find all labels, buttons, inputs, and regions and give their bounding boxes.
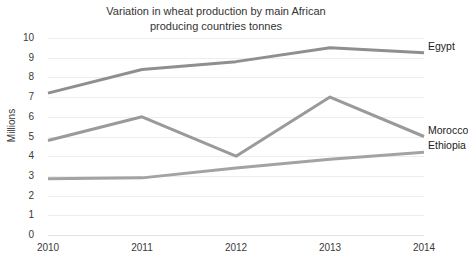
x-tick-label: 2010 [26,242,70,253]
y-tick-label: 6 [8,112,34,122]
y-tick-label: 5 [8,132,34,142]
y-tick-label: 2 [8,191,34,201]
y-tick-label: 1 [8,210,34,220]
y-tick-label: 10 [8,33,34,43]
y-tick-label: 7 [8,92,34,102]
x-tick-label: 2013 [308,242,352,253]
series-label-morocco: Morocco [428,124,468,136]
x-tick-label: 2014 [402,242,446,253]
y-tick-label: 0 [8,230,34,240]
series-label-egypt: Egypt [428,40,455,52]
gridline [48,235,424,236]
series-line-morocco [48,97,424,156]
plot-area: 012345678910 20102011201220132014 EgyptM… [48,38,424,235]
y-tick-label: 3 [8,171,34,181]
chart-title: Variation in wheat production by main Af… [0,4,432,34]
y-tick-label: 8 [8,72,34,82]
x-tick-label: 2012 [214,242,258,253]
y-axis-label: Millions [6,96,17,156]
series-lines [48,38,424,235]
series-line-egypt [48,48,424,93]
y-tick-label: 9 [8,53,34,63]
series-label-ethiopia: Ethiopia [428,139,466,151]
y-tick-label: 4 [8,151,34,161]
x-tick-label: 2011 [120,242,164,253]
